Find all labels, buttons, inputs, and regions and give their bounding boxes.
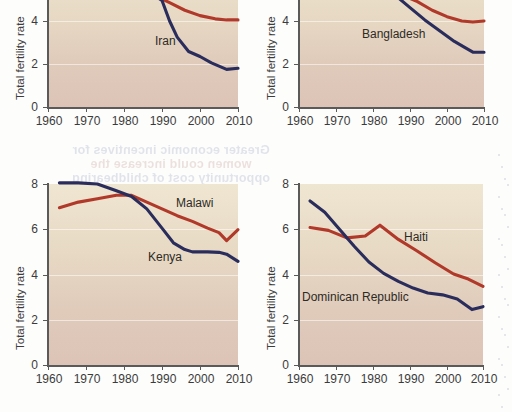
series-label-haiti: Haiti <box>404 230 428 244</box>
series-lines-iran <box>0 0 256 140</box>
series-lines-haiti-dominican-republic <box>251 160 512 412</box>
series-label-malawi: Malawi <box>176 196 213 210</box>
chart-panel-iran: 4 2 0 1960 1970 1980 1990 2000 2010 Tota… <box>0 0 256 140</box>
chart-panel-haiti-dominican-republic: 8 6 4 2 0 1960 1970 1980 1990 2000 2010 … <box>251 160 512 412</box>
bleed-line-1: Greater economic incentives for <box>66 143 276 157</box>
chart-panel-malawi-kenya: 8 6 4 2 0 1960 1970 1980 1990 2000 2010 … <box>0 160 256 412</box>
series-label-iran: Iran <box>155 34 176 48</box>
series-label-kenya: Kenya <box>148 250 182 264</box>
series-label-bangladesh: Bangladesh <box>362 27 425 41</box>
series-lines-malawi-kenya <box>0 160 256 412</box>
series-lines-bangladesh <box>251 0 512 140</box>
chart-panel-bangladesh: 4 2 0 1960 1970 1980 1990 2000 2010 Tota… <box>251 0 512 140</box>
series-label-dominican-republic: Dominican Republic <box>302 290 409 304</box>
